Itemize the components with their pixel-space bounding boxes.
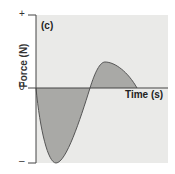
tick-minus: – bbox=[19, 155, 25, 166]
positive-area bbox=[90, 62, 137, 88]
tick-plus: + bbox=[19, 8, 25, 19]
y-axis-label: Force (N) bbox=[18, 41, 29, 91]
panel-label: (c) bbox=[41, 20, 53, 31]
negative-area bbox=[36, 88, 90, 163]
x-axis-label: Time (s) bbox=[125, 89, 163, 100]
